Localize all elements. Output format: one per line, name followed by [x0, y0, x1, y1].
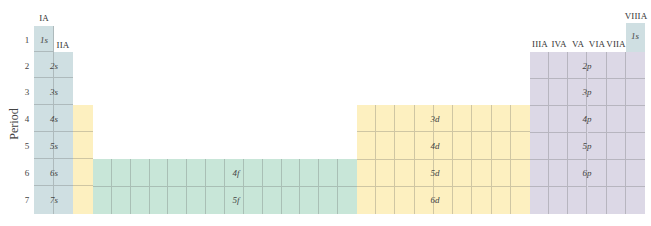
cell — [168, 159, 187, 187]
cell — [206, 187, 225, 215]
period-axis-title: Period — [7, 108, 22, 139]
cell — [588, 187, 607, 214]
orbital-label-3d: 3d — [431, 114, 440, 124]
period-number-5: 5 — [25, 141, 30, 151]
cell — [472, 160, 491, 187]
cell — [492, 187, 511, 214]
cell — [549, 79, 568, 106]
period-number-7: 7 — [25, 195, 30, 205]
cell — [376, 132, 395, 159]
cell — [511, 160, 530, 187]
group-label-iva: IVA — [551, 39, 566, 49]
cell — [549, 52, 568, 79]
cell — [263, 187, 282, 215]
cell — [549, 187, 568, 214]
cell — [530, 160, 549, 187]
period-number-1: 1 — [25, 35, 30, 45]
orbital-label-3s: 3s — [50, 87, 58, 97]
cell — [626, 106, 645, 133]
cell — [263, 159, 282, 187]
cell — [150, 159, 169, 187]
cell — [206, 159, 225, 187]
cell — [453, 160, 472, 187]
f-block — [93, 159, 357, 214]
orbital-label-2p: 2p — [583, 61, 592, 71]
cell — [73, 105, 93, 132]
group-label-viia: VIIA — [606, 39, 625, 49]
cell — [73, 132, 93, 159]
cell — [530, 52, 549, 79]
cell — [492, 105, 511, 132]
cell — [357, 160, 376, 187]
cell — [73, 186, 93, 214]
orbital-label-6s: 6s — [50, 168, 58, 178]
orbital-label-4f: 4f — [232, 168, 239, 178]
cell — [112, 159, 131, 187]
cell — [338, 187, 357, 215]
cell — [300, 159, 319, 187]
group-label-viiia: VIIIA — [625, 11, 648, 21]
cell — [395, 187, 414, 214]
cell — [511, 187, 530, 214]
cell — [319, 159, 338, 187]
cell — [357, 187, 376, 214]
group-label-ia: IA — [39, 13, 49, 23]
cell — [530, 133, 549, 160]
group-label-via: VIA — [589, 39, 605, 49]
cell — [244, 159, 263, 187]
cell — [472, 132, 491, 159]
orbital-label-1s: 1s — [40, 35, 48, 45]
period-number-4: 4 — [25, 114, 30, 124]
cell — [568, 187, 587, 214]
cell — [131, 159, 150, 187]
cell — [282, 187, 301, 215]
cell — [453, 105, 472, 132]
cell — [607, 133, 626, 160]
cell — [357, 105, 376, 132]
orbital-label-7s: 7s — [50, 195, 58, 205]
group-label-iiia: IIIA — [532, 39, 548, 49]
cell — [338, 159, 357, 187]
cell — [511, 105, 530, 132]
p-block — [530, 52, 645, 214]
cell — [112, 187, 131, 215]
cell — [319, 187, 338, 215]
cell — [187, 159, 206, 187]
cell — [549, 106, 568, 133]
cell — [376, 160, 395, 187]
orbital-label-5s: 5s — [50, 141, 58, 151]
orbital-label-6p: 6p — [583, 168, 592, 178]
cell — [244, 187, 263, 215]
cell — [472, 105, 491, 132]
d-block-first-column — [73, 105, 93, 214]
cell — [626, 160, 645, 187]
orbital-label-5p: 5p — [583, 141, 592, 151]
cell — [492, 132, 511, 159]
cell — [607, 187, 626, 214]
cell — [549, 160, 568, 187]
group-label-iia: IIA — [57, 40, 70, 50]
orbital-label-4d: 4d — [431, 141, 440, 151]
cell — [607, 106, 626, 133]
cell — [168, 187, 187, 215]
orbital-label-3p: 3p — [583, 87, 592, 97]
group-label-va: VA — [572, 39, 584, 49]
cell — [530, 79, 549, 106]
orbital-label-6d: 6d — [431, 195, 440, 205]
cell — [511, 132, 530, 159]
orbital-label-4p: 4p — [583, 114, 592, 124]
period-number-3: 3 — [25, 87, 30, 97]
orbital-label-5d: 5d — [431, 168, 440, 178]
cell — [453, 132, 472, 159]
orbital-label-2s: 2s — [50, 61, 58, 71]
cell — [395, 105, 414, 132]
cell — [187, 187, 206, 215]
cell — [472, 187, 491, 214]
cell — [376, 187, 395, 214]
cell — [607, 160, 626, 187]
cell — [530, 106, 549, 133]
cell — [73, 159, 93, 186]
period-number-2: 2 — [25, 61, 30, 71]
cell — [131, 187, 150, 215]
cell — [395, 160, 414, 187]
